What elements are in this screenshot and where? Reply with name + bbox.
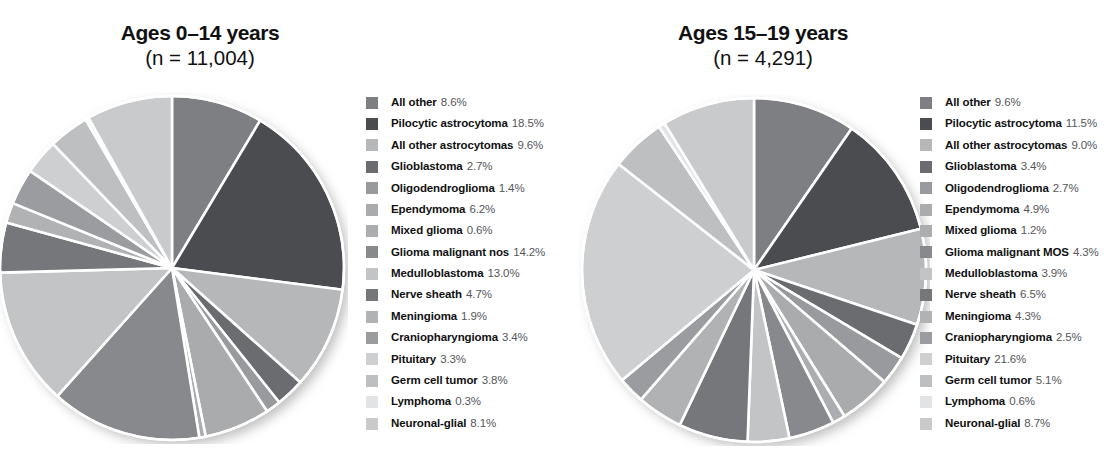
legend-item: All other astrocytomas9.6% [366,135,545,156]
legend-item-label: Medulloblastoma [945,267,1037,279]
legend-item-label: All other astrocytomas [945,139,1067,151]
legend-color-swatch [920,118,932,130]
legend-item-value: 3.4% [502,331,528,343]
legend-item: Pilocytic astrocytoma11.5% [920,113,1099,134]
legend-item-value: 1.2% [1021,224,1047,236]
pie-svg-right: All other 9.6%Pilocytic astrocytoma 11.5… [578,94,930,446]
legend-item-text: Ependymoma4.9% [945,204,1049,216]
legend-item-value: 8.1% [470,417,496,429]
legend-item-text: Oligodendroglioma1.4% [391,183,525,195]
legend-color-swatch [366,268,378,280]
legend-item-value: 0.3% [455,395,481,407]
legend-item-value: 4.7% [466,288,492,300]
legend-item-label: Craniopharyngioma [391,331,498,343]
legend-item-text: Craniopharyngioma3.4% [391,332,528,344]
legend-item-value: 8.6% [441,96,467,108]
legend-color-swatch [366,332,378,344]
legend-item: Mixed glioma1.2% [920,220,1099,241]
legend-item: Oligodendroglioma2.7% [920,178,1099,199]
legend-item-value: 11.5% [1066,117,1097,129]
legend-item-label: All other [391,96,437,108]
legend-item-label: Glioma malignant MOS [945,246,1069,258]
legend-item: Neuronal-glial8.7% [920,413,1099,434]
legend-item-text: Pituitary3.3% [391,354,466,366]
legend-item-value: 4.3% [1015,310,1041,322]
legend-item: Ependymoma6.2% [366,199,545,220]
legend-item-label: Pilocytic astrocytoma [945,117,1062,129]
legend-item-text: Nerve sheath6.5% [945,289,1046,301]
legend-item-label: Medulloblastoma [391,267,483,279]
legend-item-label: Pituitary [391,353,436,365]
legend-item: Ependymoma4.9% [920,199,1099,220]
legend-item-value: 1.4% [499,182,525,194]
legend-item-value: 3.3% [440,353,466,365]
legend-item-text: Neuronal-glial8.1% [391,418,496,430]
legend-item-value: 3.4% [1021,160,1047,172]
legend-color-swatch [920,332,932,344]
legend-item-label: Oligodendroglioma [391,182,495,194]
legend-color-swatch [366,118,378,130]
legend-item: Germ cell tumor3.8% [366,370,545,391]
legend-color-swatch [920,246,932,258]
legend-item-text: Germ cell tumor5.1% [945,375,1062,387]
legend-item-label: Neuronal-glial [945,417,1020,429]
legend-item: Lymphoma0.3% [366,391,545,412]
legend-item-value: 8.7% [1024,417,1050,429]
legend-item-label: Pilocytic astrocytoma [391,117,508,129]
legend-item-text: Pilocytic astrocytoma11.5% [945,118,1097,130]
legend-item-label: Lymphoma [945,395,1005,407]
legend-item-label: Nerve sheath [945,288,1016,300]
pie-chart-ages-0-14: All other 8.6%Pilocytic astrocytoma 18.5… [0,92,348,444]
legend-color-swatch [920,225,932,237]
pie-chart-ages-15-19: All other 9.6%Pilocytic astrocytoma 11.5… [578,94,930,446]
legend-color-swatch [920,97,932,109]
legend-item-value: 4.3% [1073,246,1099,258]
legend-item: Mixed glioma0.6% [366,220,545,241]
legend-item-text: Medulloblastoma3.9% [945,268,1067,280]
legend-item: Lymphoma0.6% [920,391,1099,412]
panel-subtitle-text-left: (n = 11,004) [0,45,400,70]
legend-item-text: Nerve sheath4.7% [391,289,492,301]
legend-item-value: 18.5% [512,117,544,129]
legend-item-value: 5.1% [1036,374,1062,386]
legend-item-value: 9.6% [517,139,543,151]
legend-color-swatch [920,375,932,387]
legend-color-swatch [920,311,932,323]
legend-item: Craniopharyngioma2.5% [920,327,1099,348]
legend-item: Medulloblastoma3.9% [920,263,1099,284]
legend-color-swatch [920,139,932,151]
legend-item-label: Glioblastoma [391,160,463,172]
panel-title-text-right: Ages 15–19 years [678,21,848,44]
legend-item: Pilocytic astrocytoma18.5% [366,113,545,134]
legend-item-label: Meningioma [391,310,457,322]
legend-item: Nerve sheath6.5% [920,285,1099,306]
legend-ages-15-19: All other9.6%Pilocytic astrocytoma11.5%A… [920,92,1099,434]
legend-item: Craniopharyngioma3.4% [366,327,545,348]
legend-item-text: Glioblastoma2.7% [391,161,492,173]
legend-color-swatch [366,161,378,173]
legend-item-text: Lymphoma0.6% [945,396,1035,408]
panel-title-text-left: Ages 0–14 years [121,21,280,44]
legend-item: Nerve sheath4.7% [366,285,545,306]
legend-color-swatch [920,418,932,430]
legend-color-swatch [920,182,932,194]
legend-item-value: 21.6% [994,353,1026,365]
legend-item: Glioblastoma3.4% [920,156,1099,177]
legend-item-text: Medulloblastoma13.0% [391,268,520,280]
legend-item: Glioma malignant nos14.2% [366,242,545,263]
legend-item-text: All other astrocytomas9.6% [391,140,543,152]
legend-color-swatch [920,396,932,408]
legend-color-swatch [366,246,378,258]
legend-color-swatch [920,161,932,173]
legend-item-text: Glioblastoma3.4% [945,161,1046,173]
legend-item-label: Ependymoma [391,203,465,215]
legend-item-label: Neuronal-glial [391,417,466,429]
legend-item-text: Craniopharyngioma2.5% [945,332,1082,344]
legend-item-text: Pilocytic astrocytoma18.5% [391,118,544,130]
legend-item: Medulloblastoma13.0% [366,263,545,284]
legend-item-value: 0.6% [1009,395,1035,407]
legend-item: Meningioma4.3% [920,306,1099,327]
legend-item-text: Neuronal-glial8.7% [945,418,1050,430]
legend-item-label: Mixed glioma [945,224,1017,236]
legend-item-text: Glioma malignant nos14.2% [391,247,545,259]
